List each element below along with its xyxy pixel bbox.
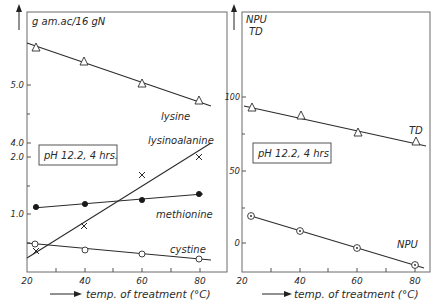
left-x-axis-arrow-icon: [50, 291, 82, 297]
left-panel: g am.ac/16 gN 5.0 4.0 2.0 1.0 20: [10, 4, 227, 300]
lysine-label: lysine: [161, 111, 190, 122]
left-y-tick-2: 2.0: [10, 152, 24, 162]
td-label: TD: [409, 125, 423, 136]
right-y-axis-arrow-icon: [231, 4, 237, 30]
series-cystine: cystine: [27, 241, 211, 262]
left-y-tick-1: 1.0: [10, 209, 24, 219]
chart-svg: g am.ac/16 gN 5.0 4.0 2.0 1.0 20: [0, 0, 439, 307]
left-y-axis-arrow-icon: [16, 4, 22, 30]
right-x-tick-80: 80: [409, 276, 421, 286]
left-x-ticks: 20 40 60 80: [21, 268, 206, 286]
npu-label: NPU: [397, 239, 419, 250]
right-plot-frame: [242, 12, 430, 272]
left-x-tick-60: 60: [136, 276, 148, 286]
series-lysine: lysine: [27, 43, 211, 122]
left-y-ticks-upper: 5.0 4.0: [10, 80, 31, 148]
right-y-axis-label-td: TD: [249, 26, 263, 37]
right-y-tick-0: 0: [235, 238, 240, 248]
right-y-tick-50: 50: [229, 166, 240, 176]
right-x-tick-60: 60: [351, 276, 363, 286]
left-condition-label: pH 12.2, 4 hrs.: [43, 150, 118, 161]
left-x-tick-40: 40: [79, 276, 91, 286]
left-y-tick-5: 5.0: [10, 80, 24, 90]
right-y-axis-label-npu: NPU: [246, 14, 268, 25]
right-y-tick-100: 100: [225, 93, 240, 102]
left-y-ticks-lower: 2.0 1.0: [10, 152, 31, 243]
left-x-tick-20: 20: [21, 276, 33, 286]
right-x-axis-arrow-icon: [262, 291, 292, 297]
chart-figure: g am.ac/16 gN 5.0 4.0 2.0 1.0 20: [0, 0, 439, 307]
series-td: TD: [244, 103, 426, 146]
right-panel: NPU TD 100 50 0 20 40 60 80: [225, 4, 430, 300]
left-x-axis-label: temp. of treatment (°C): [86, 288, 211, 300]
left-y-tick-4: 4.0: [10, 138, 24, 148]
left-y-axis-label: g am.ac/16 gN: [32, 16, 106, 27]
series-npu: NPU: [248, 213, 424, 269]
right-x-tick-40: 40: [294, 276, 306, 286]
series-methionine: methionine: [33, 191, 213, 220]
left-x-tick-80: 80: [194, 276, 206, 286]
cystine-label: cystine: [170, 244, 206, 255]
right-x-tick-20: 20: [236, 276, 248, 286]
right-x-axis-label: temp. of treatment (°C): [294, 288, 419, 300]
right-y-ticks: 100 50 0: [225, 93, 246, 248]
right-x-ticks: 20 40 60 80: [236, 268, 421, 286]
methionine-label: methionine: [156, 209, 213, 220]
right-condition-label: pH 12.2, 4 hrs: [257, 148, 329, 159]
lysinoalanine-label: lysinoalanine: [148, 135, 214, 146]
